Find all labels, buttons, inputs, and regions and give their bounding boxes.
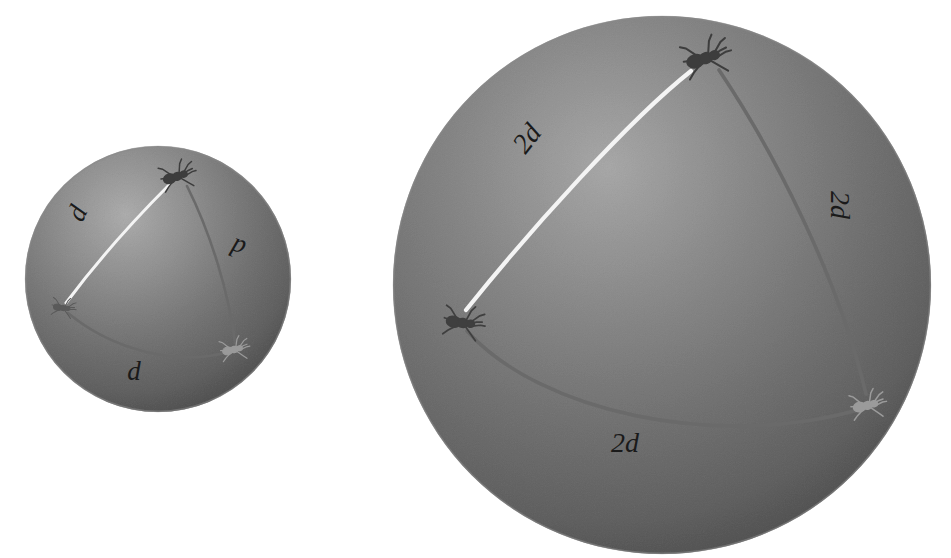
large-sphere: 2d2d2d — [393, 16, 931, 554]
large-sphere-arc-label-bottom: 2d — [611, 427, 640, 458]
small-sphere-arc-label-bottom: d — [127, 356, 141, 386]
sphere-diagram: ddd2d2d2d — [0, 0, 951, 558]
spheres-layer: ddd2d2d2d — [25, 16, 931, 554]
small-sphere: ddd — [25, 146, 291, 412]
large-sphere-arc-label-right: 2d — [825, 191, 856, 220]
figure-canvas: ddd2d2d2d — [0, 0, 951, 558]
